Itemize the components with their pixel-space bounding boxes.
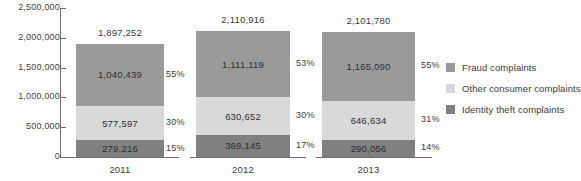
bar-segment[interactable]: 646,634 — [322, 101, 415, 140]
legend-item-label: Fraud complaints — [462, 62, 536, 73]
bar-total-label: 1,897,252 — [64, 27, 176, 38]
y-axis-tick — [60, 8, 66, 9]
legend-item[interactable]: Identity theft complaints — [446, 104, 574, 115]
y-axis-tick-label-wrap: 2,500,000 — [0, 8, 60, 9]
bar-segment-percent-label: 30% — [166, 117, 185, 127]
x-axis-label-2013: 2013 — [302, 164, 435, 175]
y-axis-tick-label: 1,000,000 — [4, 91, 60, 101]
y-axis-tick-label: 1,500,000 — [4, 62, 60, 72]
bar-segment-percent-label: 31% — [421, 114, 440, 124]
y-axis-tick — [60, 97, 66, 98]
bar-segment-value-label: 290,056 — [351, 143, 387, 154]
bar-segment-percent-label: 17% — [296, 140, 315, 150]
bar-segment-value-label: 279,216 — [102, 143, 138, 154]
bar-segment[interactable]: 577,597 — [76, 106, 164, 140]
bar-group-2013[interactable]: 290,056646,6341,165,090 — [322, 8, 415, 157]
y-axis-line — [60, 8, 61, 158]
legend-item[interactable]: Other consumer complaints — [446, 83, 574, 94]
bar-segment[interactable]: 369,145 — [196, 135, 290, 157]
bar-segment[interactable]: 1,111,119 — [196, 31, 290, 97]
bar-segment-value-label: 646,634 — [351, 115, 387, 126]
y-axis-tick-label-wrap: 1,000,000 — [0, 97, 60, 98]
x-axis-label-2012: 2012 — [176, 164, 310, 175]
bar-segment-value-label: 577,597 — [102, 118, 138, 129]
y-axis-tick — [60, 68, 66, 69]
y-axis-tick-label: 2,500,000 — [4, 2, 60, 12]
y-axis-tick-label-wrap: 1,500,000 — [0, 68, 60, 69]
bar-segment-percent-label: 55% — [166, 69, 185, 79]
x-axis-label-2011: 2011 — [56, 164, 184, 175]
legend-swatch-icon — [446, 105, 455, 114]
bar-segment[interactable]: 1,165,090 — [322, 32, 415, 101]
y-axis-tick-label: 2,000,000 — [4, 32, 60, 42]
bar-segment[interactable]: 630,652 — [196, 97, 290, 135]
y-axis-tick-label: 0 — [4, 151, 60, 161]
bar-segment-value-label: 1,040,439 — [98, 69, 142, 80]
x-axis-baseline — [64, 157, 179, 158]
bar-segment-percent-label: 30% — [296, 110, 315, 120]
bar-segment-percent-label: 14% — [421, 142, 440, 152]
y-axis-tick — [60, 127, 66, 128]
bar-total-label: 2,110,916 — [184, 14, 302, 25]
y-axis-tick-label: 500,000 — [4, 121, 60, 131]
bar-segment-percent-label: 15% — [166, 143, 185, 153]
bar-total-label: 2,101,780 — [310, 15, 427, 26]
bar-segment-value-label: 1,111,119 — [222, 59, 264, 70]
bar-segment-value-label: 630,652 — [225, 111, 261, 122]
legend-item-label: Identity theft complaints — [462, 104, 564, 115]
legend-item-label: Other consumer complaints — [462, 83, 581, 94]
bar-segment[interactable]: 1,040,439 — [76, 44, 164, 106]
y-axis-tick — [60, 38, 66, 39]
bar-segment-value-label: 369,145 — [225, 140, 261, 151]
bar-segment-percent-label: 53% — [296, 58, 315, 68]
legend-swatch-icon — [446, 63, 455, 72]
bar-segment-value-label: 1,165,090 — [346, 61, 390, 72]
bar-group-2012[interactable]: 369,145630,6521,111,119 — [196, 8, 290, 157]
x-axis-baseline — [190, 157, 306, 158]
bar-segment-percent-label: 55% — [421, 60, 440, 70]
bar-segment[interactable]: 279,216 — [76, 140, 164, 157]
y-axis-tick-label-wrap: 500,000 — [0, 127, 60, 128]
x-axis-baseline — [316, 157, 432, 158]
chart-legend: Fraud complaintsOther consumer complaint… — [446, 62, 574, 125]
y-axis-tick-label-wrap: 0 — [0, 157, 60, 158]
bar-segment[interactable]: 290,056 — [322, 140, 415, 157]
legend-swatch-icon — [446, 84, 455, 93]
y-axis-tick-label-wrap: 2,000,000 — [0, 38, 60, 39]
legend-item[interactable]: Fraud complaints — [446, 62, 574, 73]
